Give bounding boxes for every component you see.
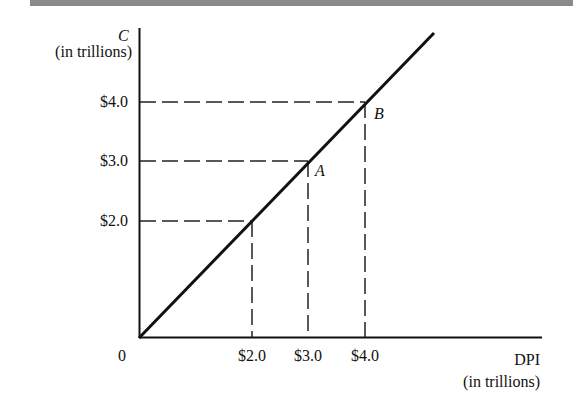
x-axis-unit: (in trillions): [420, 374, 540, 390]
x-tick-2: $2.0: [222, 348, 282, 364]
y-tick-4: $4.0: [60, 94, 128, 110]
point-b-label: B: [374, 106, 384, 122]
point-a-label: A: [315, 163, 325, 179]
x-tick-3: $3.0: [278, 348, 338, 364]
x-tick-4: $4.0: [335, 348, 395, 364]
y-tick-2: $2.0: [60, 213, 128, 229]
y-axis-label: C: [118, 28, 129, 44]
consumption-line: [139, 33, 434, 338]
y-tick-3: $3.0: [60, 153, 128, 169]
x-axis-label: DPI: [440, 352, 540, 368]
y-axis-unit: (in trillions): [30, 44, 132, 60]
origin-label: 0: [118, 348, 126, 364]
